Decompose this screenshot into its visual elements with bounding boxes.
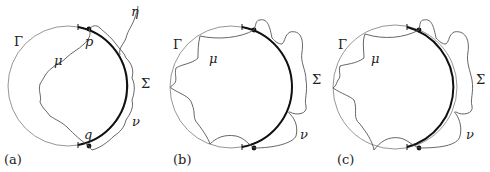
sigma-label: Σ bbox=[141, 76, 150, 91]
nu-curve bbox=[419, 20, 473, 148]
sigma-label: Σ bbox=[476, 72, 485, 87]
gamma-label: Γ bbox=[338, 37, 347, 52]
gamma-label: Γ bbox=[14, 34, 23, 49]
sigma-arc bbox=[242, 27, 292, 147]
gamma-label: Γ bbox=[173, 37, 182, 52]
p-label: p bbox=[85, 34, 94, 49]
panel-c-label: (c) bbox=[337, 152, 354, 167]
panel-c: Γ μ Σ ν (c) bbox=[333, 20, 485, 167]
nu-curve bbox=[254, 20, 307, 148]
mu-curve-bottom bbox=[374, 138, 419, 150]
nu-label: ν bbox=[466, 127, 474, 142]
eta-label: η bbox=[131, 4, 139, 19]
sigma-label: Σ bbox=[312, 72, 321, 87]
panel-b-label: (b) bbox=[173, 152, 191, 167]
nu-label: ν bbox=[132, 114, 140, 129]
mu-curve-left bbox=[171, 68, 176, 88]
sigma-arc bbox=[407, 27, 453, 147]
panel-b: Γ μ Σ ν (b) bbox=[170, 20, 321, 167]
mu-curve bbox=[39, 29, 90, 146]
mu-curve-top bbox=[200, 30, 254, 38]
panel-a-label: (a) bbox=[4, 152, 22, 167]
mu-label: μ bbox=[54, 53, 62, 68]
panel-a: Γ μ Σ ν η p q (a) bbox=[4, 4, 150, 167]
figure-canvas: Γ μ Σ ν η p q (a) Γ μ Σ ν (b) bbox=[0, 0, 490, 172]
gamma-circle bbox=[333, 25, 457, 149]
mu-label: μ bbox=[371, 51, 379, 66]
nu-label: ν bbox=[300, 127, 308, 142]
mu-curve-top bbox=[365, 30, 419, 37]
mu-label: μ bbox=[209, 51, 217, 66]
q-label: q bbox=[84, 127, 92, 142]
mu-curve-lower bbox=[333, 88, 374, 150]
